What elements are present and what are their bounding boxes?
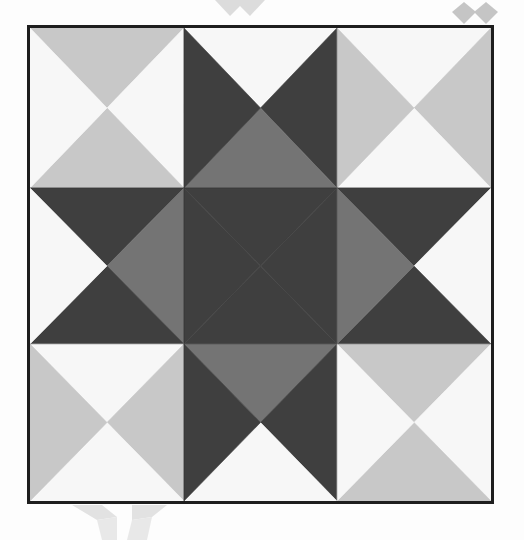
quilt-cell-r2-c0: [30, 344, 184, 501]
quilt-cell-r0-c0: [30, 28, 184, 188]
quilt-cell-r1-c1: [184, 188, 337, 344]
quilt-diagram: [0, 0, 524, 540]
watermark-bottom-pinwheel-icon: [72, 505, 167, 540]
quilt-cell-r0-c1: [184, 28, 337, 188]
watermark-diamonds-icon: [452, 0, 502, 26]
quilt-block: [27, 25, 494, 504]
quilt-block-canvas: [30, 28, 491, 501]
watermark-top-triangle-icon: [215, 0, 265, 18]
quilt-cell-r0-c2: [337, 28, 491, 188]
quilt-cell-r2-c2: [337, 344, 491, 501]
quilt-cell-r2-c1: [184, 344, 337, 501]
quilt-cell-r1-c0: [30, 188, 184, 344]
quilt-cell-r1-c2: [337, 188, 491, 344]
